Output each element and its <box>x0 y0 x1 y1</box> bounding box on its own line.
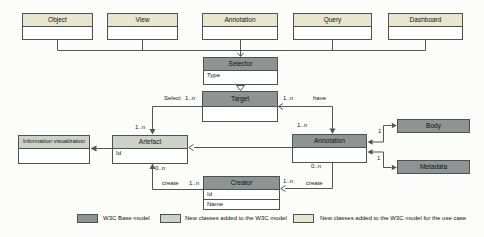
class-information-visualization-body <box>19 149 89 163</box>
class-body: Body <box>397 119 470 133</box>
legend-swatch-base-model <box>77 214 98 223</box>
class-dashboard: Dashboard <box>388 13 463 40</box>
edge-label-annotation-in-mult: 1..n <box>297 122 307 128</box>
edge-label-annotation-create-mult: 0..n <box>311 163 321 169</box>
class-dashboard-body <box>389 27 462 39</box>
legend-label-use-case-classes: New classes added to the W3C model for t… <box>320 214 466 223</box>
class-creator-attr-name: Name <box>204 200 279 209</box>
legend-label-added-classes: New classes added to the W3C model <box>185 214 287 223</box>
legend-swatch-added-classes <box>160 214 181 223</box>
class-annotation-top: Annotation <box>202 13 278 40</box>
class-information-visualization: Information visualization <box>18 135 90 164</box>
edge-label-create-left-mult: 1..n <box>189 180 199 186</box>
edge-label-have: have <box>313 95 326 101</box>
class-object-name: Object <box>23 14 92 27</box>
class-artefact-attr-id: Id <box>113 149 187 163</box>
edge-label-create-right-mult: 1..n <box>283 178 293 184</box>
class-annotation-top-body <box>203 27 277 39</box>
class-target-body <box>203 107 277 121</box>
class-view: View <box>107 13 178 40</box>
class-artefact: Artefact Id <box>112 135 188 164</box>
legend-label-base-model: W3C Base model <box>103 214 150 223</box>
class-dashboard-name: Dashboard <box>389 14 462 27</box>
class-object: Object <box>22 13 93 40</box>
class-view-name: View <box>108 14 177 27</box>
class-creator: Creator Id Name <box>203 176 280 210</box>
uml-class-diagram: Object View Annotation Query Dashboard S… <box>0 0 484 237</box>
class-annotation-name: Annotation <box>293 135 366 148</box>
class-object-body <box>23 27 92 39</box>
class-artefact-name: Artefact <box>113 136 187 149</box>
class-selector: Selector Type <box>203 57 278 85</box>
edge-label-artefact-in-mult: 1..n <box>135 124 145 130</box>
class-view-body <box>108 27 177 39</box>
class-target-name: Target <box>203 92 277 107</box>
class-annotation: Annotation <box>292 134 367 163</box>
class-query-name: Query <box>294 14 371 27</box>
class-query-body <box>294 27 371 39</box>
class-selector-attr-type: Type <box>204 71 277 84</box>
edge-label-artefact-create-mult: 0..n <box>155 165 165 171</box>
edge-label-metadata-mult: 1 <box>377 155 380 161</box>
edge-label-body-mult: 1 <box>378 128 381 134</box>
edge-label-select-mult: 1..n <box>185 95 195 101</box>
class-selector-name: Selector <box>204 58 277 71</box>
class-target: Target <box>202 91 278 122</box>
edge-label-select: Select <box>164 95 181 101</box>
class-annotation-body <box>293 148 366 162</box>
edge-label-create-left: create <box>162 180 179 186</box>
class-annotation-top-name: Annotation <box>203 14 277 27</box>
class-information-visualization-name: Information visualization <box>19 136 89 149</box>
class-query: Query <box>293 13 372 40</box>
edge-label-create-right: create <box>306 180 323 186</box>
class-creator-name: Creator <box>204 177 279 190</box>
legend: W3C Base model New classes added to the … <box>0 211 484 227</box>
class-creator-attr-id: Id <box>204 190 279 200</box>
legend-swatch-use-case-classes <box>293 214 314 223</box>
edge-label-have-mult: 1..n <box>283 95 293 101</box>
class-metadata: Metadata <box>397 160 470 174</box>
